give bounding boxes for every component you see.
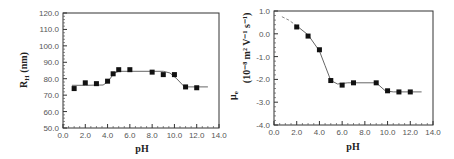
- data-point-marker: [161, 72, 166, 77]
- x-tick-label: 8.0: [147, 131, 159, 140]
- data-point-marker: [194, 85, 199, 90]
- y-tick-label: 110.0: [40, 25, 60, 34]
- right-y-axis-symbol-sub: e: [232, 91, 240, 94]
- data-point-marker: [396, 89, 401, 94]
- x-tick-label: 10.0: [167, 131, 183, 140]
- left-y-axis-title-unit: (nm): [18, 52, 30, 75]
- data-point-marker: [127, 67, 132, 72]
- y-tick-label: -2.0: [256, 75, 270, 84]
- y-tick-label: 0.0: [259, 30, 271, 39]
- y-tick-label: 100.0: [39, 42, 60, 51]
- data-point-marker: [351, 80, 356, 85]
- x-tick-label: 14.0: [211, 131, 227, 140]
- y-tick-label: 90.0: [43, 58, 59, 67]
- data-point-marker: [83, 80, 88, 85]
- y-tick-label: 1.0: [259, 7, 271, 16]
- data-point-marker: [317, 47, 322, 52]
- x-tick-label: 2.0: [80, 131, 92, 140]
- data-point-marker: [116, 67, 121, 72]
- right-chart-mobility-vs-ph: -4.0-3.0-2.0-1.00.01.0 0.02.04.06.08.010…: [227, 7, 441, 152]
- y-tick-label: -1.0: [256, 53, 270, 62]
- data-point-marker: [408, 89, 413, 94]
- data-point-marker: [150, 70, 155, 75]
- x-tick-label: 10.0: [380, 128, 396, 137]
- left-data-points: [72, 67, 200, 91]
- y-tick-label: 120.0: [39, 9, 60, 18]
- left-x-axis-ticks: 0.02.04.06.08.010.012.014.0: [57, 124, 227, 140]
- y-tick-label: 80.0: [43, 75, 59, 84]
- y-tick-label: 70.0: [43, 91, 59, 100]
- right-x-axis-ticks: 0.02.04.06.08.010.012.014.0: [268, 121, 441, 137]
- right-fit-curve: [297, 26, 422, 92]
- left-y-axis-title: RH (nm): [18, 52, 31, 88]
- x-tick-label: 6.0: [337, 128, 349, 137]
- data-point-marker: [306, 34, 311, 39]
- x-tick-label: 12.0: [189, 131, 205, 140]
- data-point-marker: [385, 88, 390, 93]
- x-tick-label: 0.0: [268, 128, 280, 137]
- data-point-marker: [94, 81, 99, 86]
- right-y-axis-symbol: μe: [227, 91, 240, 100]
- data-point-marker: [183, 84, 188, 89]
- y-tick-label: 60.0: [43, 108, 59, 117]
- data-point-marker: [374, 80, 379, 85]
- data-point-marker: [294, 24, 299, 29]
- x-tick-label: 14.0: [425, 128, 441, 137]
- right-x-axis-title: pH: [346, 141, 360, 152]
- right-y-axis-ticks: -4.0-3.0-2.0-1.00.01.0: [256, 7, 278, 130]
- y-tick-label: -3.0: [256, 98, 270, 107]
- left-plot-frame: [63, 13, 219, 128]
- x-tick-label: 2.0: [291, 128, 303, 137]
- left-chart-rh-vs-ph: 50.060.070.080.090.0100.0110.0120.0 0.02…: [18, 9, 227, 154]
- right-fit-extrapolation: [282, 17, 297, 26]
- data-point-marker: [72, 86, 77, 91]
- data-point-marker: [105, 79, 110, 84]
- x-tick-label: 4.0: [102, 131, 114, 140]
- x-tick-label: 8.0: [359, 128, 371, 137]
- left-x-axis-title: pH: [135, 143, 149, 154]
- figure: 50.060.070.080.090.0100.0110.0120.0 0.02…: [0, 0, 454, 159]
- x-tick-label: 0.0: [57, 131, 69, 140]
- data-point-marker: [328, 78, 333, 83]
- x-tick-label: 4.0: [314, 128, 326, 137]
- data-point-marker: [340, 83, 345, 88]
- x-tick-label: 6.0: [124, 131, 136, 140]
- right-y-axis-unit: (10⁻⁸ m² V⁻¹ s⁻¹): [241, 13, 253, 83]
- right-data-points: [294, 24, 413, 94]
- data-point-marker: [111, 71, 116, 76]
- x-tick-label: 12.0: [402, 128, 418, 137]
- data-point-marker: [172, 72, 177, 77]
